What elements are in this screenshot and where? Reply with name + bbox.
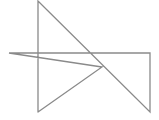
- diagram-canvas: [0, 0, 159, 120]
- line-drawing: [0, 0, 159, 120]
- polyline-shape: [9, 1, 150, 112]
